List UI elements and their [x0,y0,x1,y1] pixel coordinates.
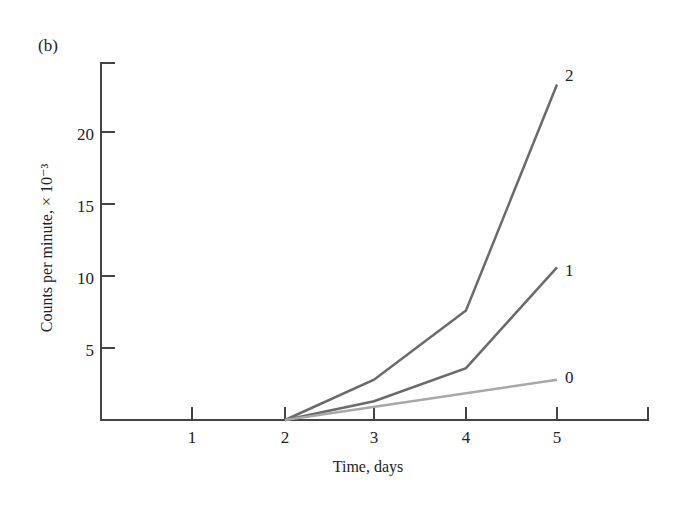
series-line-2 [285,84,557,420]
x-tick-label: 4 [462,428,471,448]
series-label-0: 0 [565,368,574,388]
y-tick-label: 15 [77,197,94,217]
series-label-1: 1 [565,261,574,281]
x-tick-label: 1 [188,428,197,448]
x-tick-label: 2 [281,428,290,448]
panel-label: (b) [38,36,58,56]
y-tick-label: 5 [86,341,95,361]
series-lines [285,84,557,420]
y-tick-label: 10 [77,269,94,289]
x-tick-label: 5 [553,428,562,448]
series-line-0 [285,380,557,420]
y-axis-label: Counts per minute, × 10⁻³ [37,164,56,332]
y-tick-label: 20 [77,125,94,145]
x-axis-label: Time, days [333,458,404,476]
line-chart [0,0,678,524]
series-label-2: 2 [565,66,574,86]
x-tick-label: 3 [370,428,379,448]
